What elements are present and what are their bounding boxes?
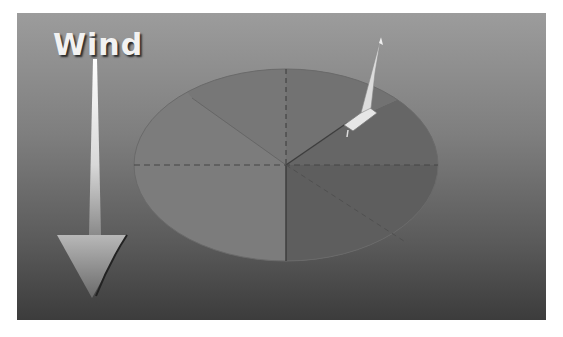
wind-label: Wind [53,27,143,62]
sector-circle [117,53,457,293]
diagram-panel: Wind [17,13,546,320]
sector-lower-right [286,165,457,293]
arrow-down-icon [57,59,127,298]
